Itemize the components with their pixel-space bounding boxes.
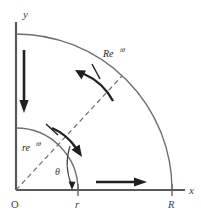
outer-radius-tick-label: R [167, 199, 175, 210]
y-axis-label: y [22, 8, 28, 20]
angle-label: θ [55, 166, 60, 177]
x-axis-label: x [188, 184, 194, 196]
origin-label: O [11, 199, 19, 210]
inner-radius-tick-label: r [75, 199, 80, 210]
outer-arc-label-exponent: iθ [120, 46, 126, 53]
labels-canvas: y x O r R re iθ Re iθ θ [0, 0, 201, 218]
outer-arc-label-base: Re [102, 48, 114, 59]
inner-arc-label-base: re [22, 142, 31, 153]
contour-figure: y x O r R re iθ Re iθ θ [0, 0, 201, 218]
inner-arc-label-exponent: iθ [36, 140, 42, 147]
